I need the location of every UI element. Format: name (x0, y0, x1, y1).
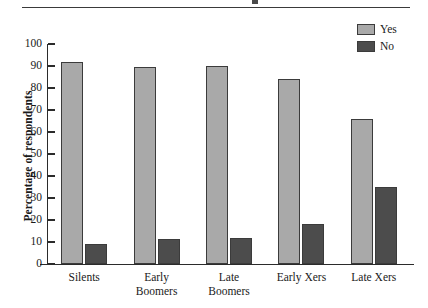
y-axis-tick-label: 100 (4, 38, 42, 50)
legend-swatch-yes (357, 24, 375, 35)
y-axis-tick-label: 70 (4, 104, 42, 116)
legend-label-yes: Yes (380, 24, 397, 36)
bar-no (230, 238, 252, 264)
legend-item-yes: Yes (357, 22, 423, 37)
y-axis-tick-label: 80 (4, 82, 42, 94)
bar-no (302, 224, 324, 264)
x-axis-label-line: Late Xers (324, 271, 424, 285)
y-axis-tick-label: 20 (4, 214, 42, 226)
y-axis-tick-label: 50 (4, 148, 42, 160)
bar-no (85, 244, 107, 264)
y-axis-tick-label: 90 (4, 60, 42, 72)
top-horizontal-rule (22, 7, 410, 8)
x-axis-label-line: Boomers (179, 285, 279, 299)
y-axis-tick-label: 0 (4, 258, 42, 270)
bar-yes (351, 119, 373, 264)
legend-item-no: No (357, 39, 423, 54)
y-axis-tick-label: 10 (4, 236, 42, 248)
clipped-text-fragment (252, 0, 258, 4)
y-axis-tick-label: 30 (4, 192, 42, 204)
bar-yes (278, 79, 300, 264)
y-axis-tick-label: 40 (4, 170, 42, 182)
bar-no (158, 239, 180, 264)
bar-yes (206, 66, 228, 264)
y-axis-tick-label: 60 (4, 126, 42, 138)
plot-area (48, 44, 410, 264)
chart-figure: Percentage of respondents 01020304050607… (0, 0, 428, 308)
bar-yes (61, 62, 83, 264)
x-axis-label: Late Xers (324, 271, 424, 285)
legend-label-no: No (380, 41, 394, 53)
chart-legend: Yes No (357, 22, 423, 56)
x-axis-line (40, 264, 414, 265)
bar-no (375, 187, 397, 264)
bar-yes (134, 67, 156, 264)
legend-swatch-no (357, 41, 375, 52)
